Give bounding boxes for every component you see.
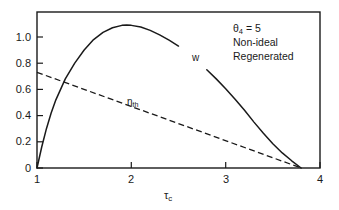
- x-axis-title-subscript: c: [168, 194, 172, 203]
- x-axis-title: τc: [164, 190, 172, 203]
- x-tick-label-1: 1: [27, 174, 47, 185]
- x-tick-label-2: 2: [121, 174, 141, 185]
- chart-figure: 1.0 0.8 0.6 0.4 0.2 0 1 2 3 4 τc w ηth θ…: [0, 0, 339, 210]
- series-label-w: w: [192, 53, 199, 63]
- x-tick-label-3: 3: [216, 174, 236, 185]
- series-eta-th-line: [37, 72, 301, 168]
- y-tick-label-0-6: 0.6: [3, 84, 31, 95]
- series-w-curve-left: [37, 25, 179, 168]
- y-tick-label-0-2: 0.2: [3, 136, 31, 147]
- y-tick-label-0-4: 0.4: [3, 110, 31, 121]
- x-tick-marks: [37, 162, 320, 168]
- series-label-eta-th: ηth: [127, 97, 139, 108]
- series-w-curve-right: [207, 70, 301, 168]
- y-tick-label-0-8: 0.8: [3, 58, 31, 69]
- theta-equation: = 5: [246, 22, 261, 34]
- x-tick-label-4: 4: [310, 174, 330, 185]
- annotation-line-theta: θ4 = 5: [233, 22, 294, 36]
- annotation-line-regenerated: Regenerated: [233, 50, 294, 64]
- annotation-line-non-ideal: Non-ideal: [233, 36, 294, 50]
- theta-subscript: 4: [239, 27, 243, 36]
- eta-subscript: th: [133, 100, 139, 109]
- annotation-block: θ4 = 5 Non-ideal Regenerated: [233, 22, 294, 64]
- y-tick-label-1-0: 1.0: [3, 32, 31, 43]
- y-tick-label-0: 0: [3, 163, 31, 174]
